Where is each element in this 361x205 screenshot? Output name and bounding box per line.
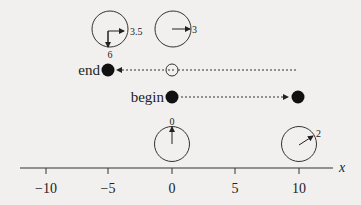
dial-top-right: 3 bbox=[155, 11, 197, 47]
begin-row: begin bbox=[131, 89, 305, 105]
dial-label: 3 bbox=[192, 24, 197, 35]
axis-label: x bbox=[338, 160, 346, 175]
begin-label: begin bbox=[131, 89, 165, 105]
tick-label: 10 bbox=[292, 181, 306, 196]
dial-top-left: 3.5 6 bbox=[92, 11, 143, 60]
target-point bbox=[292, 91, 305, 104]
dial-bottom-right: 2 bbox=[282, 127, 322, 162]
dial-label: 0 bbox=[170, 116, 175, 127]
end-row: end bbox=[78, 62, 296, 78]
begin-point bbox=[166, 91, 179, 104]
end-point bbox=[102, 64, 115, 77]
x-axis: −10 −5 0 5 10 x bbox=[20, 160, 346, 196]
tick-label: 5 bbox=[232, 181, 239, 196]
dial-bottom-left: 0 bbox=[155, 116, 190, 162]
dial-label: 6 bbox=[108, 49, 113, 60]
tick-label: −10 bbox=[35, 181, 57, 196]
dial-label: 3.5 bbox=[130, 26, 143, 37]
end-label: end bbox=[78, 62, 100, 78]
tick-label: −5 bbox=[101, 181, 116, 196]
position-diagram: −10 −5 0 5 10 x 3.5 6 3 end begin 0 bbox=[0, 0, 361, 205]
tick-label: 0 bbox=[169, 181, 176, 196]
dial-label: 2 bbox=[316, 128, 321, 139]
